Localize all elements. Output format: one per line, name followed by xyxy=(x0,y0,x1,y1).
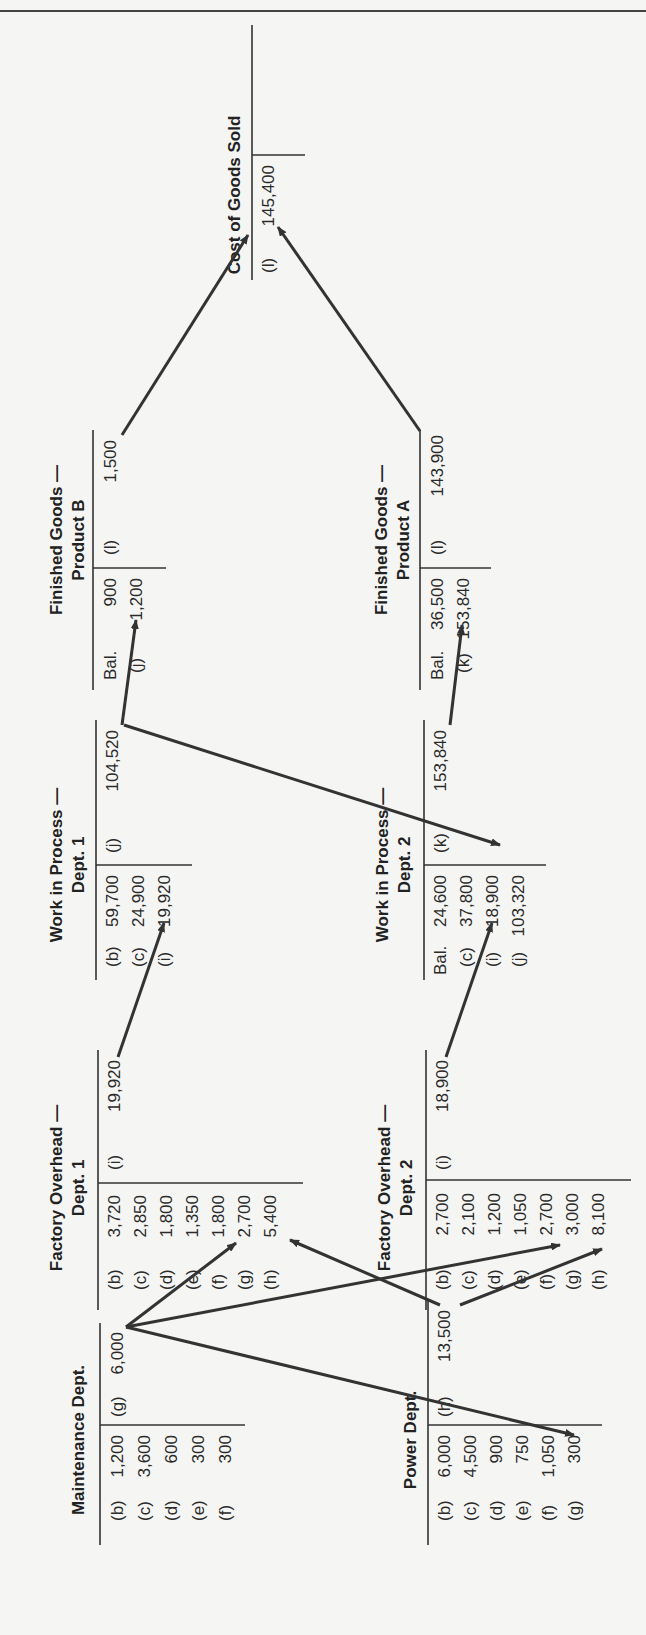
arrow-maint-to-power xyxy=(126,1327,574,1435)
t-account-power: Power Dept. (b)6,000 (c)4,500 (d)900 (e)… xyxy=(401,1300,602,1545)
svg-text:(d): (d) xyxy=(162,1500,181,1521)
svg-text:(f): (f) xyxy=(537,1274,556,1290)
svg-text:18,900: 18,900 xyxy=(483,875,502,927)
svg-text:59,700: 59,700 xyxy=(103,875,122,927)
svg-text:143,900: 143,900 xyxy=(428,435,447,496)
svg-text:4,500: 4,500 xyxy=(461,1435,480,1478)
svg-text:Finished Goods —: Finished Goods — xyxy=(47,465,66,615)
svg-text:Dept. 2: Dept. 2 xyxy=(395,837,414,894)
t-account-diagram: Maintenance Dept. (b)1,200 (c)3,600 (d)6… xyxy=(0,0,646,1635)
svg-text:(d): (d) xyxy=(485,1269,504,1290)
svg-text:1,200: 1,200 xyxy=(108,1435,127,1478)
svg-text:37,800: 37,800 xyxy=(457,875,476,927)
svg-text:24,600: 24,600 xyxy=(431,875,450,927)
svg-text:Bal.: Bal. xyxy=(431,946,450,975)
svg-text:(f): (f) xyxy=(209,1274,228,1290)
svg-text:2,100: 2,100 xyxy=(459,1193,478,1236)
svg-text:1,500: 1,500 xyxy=(101,440,120,483)
svg-text:(b): (b) xyxy=(103,946,122,967)
svg-text:(k): (k) xyxy=(431,833,450,853)
svg-text:104,520: 104,520 xyxy=(103,730,122,791)
svg-text:900: 900 xyxy=(101,578,120,606)
svg-text:600: 600 xyxy=(162,1435,181,1463)
svg-text:1,800: 1,800 xyxy=(209,1195,228,1238)
svg-text:300: 300 xyxy=(565,1435,584,1463)
svg-text:18,900: 18,900 xyxy=(433,1060,452,1112)
svg-text:(c): (c) xyxy=(135,1501,154,1521)
svg-text:Cost of Goods Sold: Cost of Goods Sold xyxy=(225,116,244,275)
svg-text:(l): (l) xyxy=(101,540,120,555)
svg-text:1,200: 1,200 xyxy=(127,578,146,621)
svg-text:103,320: 103,320 xyxy=(509,875,528,936)
t-account-foh-dept1: Factory Overhead — Dept. 1 (b)3,720 (c)2… xyxy=(47,1050,303,1310)
svg-text:(j): (j) xyxy=(103,838,122,853)
svg-text:(c): (c) xyxy=(457,947,476,967)
arrow-foh2-to-wip2 xyxy=(446,923,492,1057)
svg-text:8,100: 8,100 xyxy=(589,1193,608,1236)
svg-text:Dept. 1: Dept. 1 xyxy=(69,837,88,894)
svg-text:2,850: 2,850 xyxy=(131,1195,150,1238)
t-account-maintenance: Maintenance Dept. (b)1,200 (c)3,600 (d)6… xyxy=(69,1323,245,1545)
arrow-fgb-to-cogs xyxy=(122,235,248,435)
svg-text:(c): (c) xyxy=(459,1270,478,1290)
svg-text:Product A: Product A xyxy=(394,500,413,581)
account-title: Power Dept. xyxy=(401,1391,420,1489)
svg-text:(f): (f) xyxy=(216,1505,235,1521)
svg-text:(l): (l) xyxy=(259,258,278,273)
svg-text:(e): (e) xyxy=(189,1500,208,1521)
svg-text:300: 300 xyxy=(189,1435,208,1463)
t-account-wip-dept1: Work in Process — Dept. 1 (b)59,700 (c)2… xyxy=(47,720,192,980)
svg-text:3,600: 3,600 xyxy=(135,1435,154,1478)
svg-text:Factory Overhead —: Factory Overhead — xyxy=(375,1105,394,1271)
svg-text:5,400: 5,400 xyxy=(261,1195,280,1238)
svg-text:(i): (i) xyxy=(433,1155,452,1170)
svg-text:6,000: 6,000 xyxy=(108,1332,127,1375)
svg-text:(d): (d) xyxy=(487,1500,506,1521)
svg-text:24,900: 24,900 xyxy=(129,875,148,927)
svg-text:1,050: 1,050 xyxy=(539,1435,558,1478)
svg-text:19,920: 19,920 xyxy=(155,875,174,927)
svg-text:Bal.: Bal. xyxy=(428,651,447,680)
arrow-foh1-to-wip1 xyxy=(118,923,164,1057)
svg-text:Dept. 2: Dept. 2 xyxy=(397,1160,416,1217)
svg-text:(h): (h) xyxy=(261,1269,280,1290)
svg-text:(g): (g) xyxy=(235,1269,254,1290)
svg-text:153,840: 153,840 xyxy=(454,578,473,639)
svg-text:19,920: 19,920 xyxy=(105,1060,124,1112)
svg-text:(d): (d) xyxy=(157,1269,176,1290)
svg-text:3,720: 3,720 xyxy=(105,1195,124,1238)
svg-text:(f): (f) xyxy=(539,1505,558,1521)
svg-text:3,000: 3,000 xyxy=(563,1193,582,1236)
svg-text:(g): (g) xyxy=(108,1396,127,1417)
svg-text:(g): (g) xyxy=(563,1269,582,1290)
t-account-foh-dept2: Factory Overhead — Dept. 2 (b)2,700 (c)2… xyxy=(375,1050,631,1310)
svg-text:(i): (i) xyxy=(155,952,174,967)
svg-text:Product B: Product B xyxy=(69,499,88,580)
flow-arrows xyxy=(118,227,602,1435)
svg-text:(e): (e) xyxy=(513,1500,532,1521)
svg-text:(j): (j) xyxy=(509,952,528,967)
svg-text:153,840: 153,840 xyxy=(431,730,450,791)
t-account-fg-product-a: Finished Goods — Product A Bal.36,500 (k… xyxy=(372,430,491,690)
svg-text:(b): (b) xyxy=(108,1500,127,1521)
t-account-wip-dept2: Work in Process — Dept. 2 Bal.24,600 (c)… xyxy=(373,720,546,980)
svg-text:(c): (c) xyxy=(131,1270,150,1290)
account-title: Maintenance Dept. xyxy=(69,1365,88,1515)
svg-text:6,000: 6,000 xyxy=(435,1435,454,1478)
svg-text:900: 900 xyxy=(487,1435,506,1463)
svg-text:300: 300 xyxy=(216,1435,235,1463)
svg-text:1,800: 1,800 xyxy=(157,1195,176,1238)
t-account-cost-of-goods-sold: Cost of Goods Sold (l)145,400 xyxy=(225,25,305,280)
svg-text:Factory Overhead —: Factory Overhead — xyxy=(47,1105,66,1271)
svg-text:(l): (l) xyxy=(428,540,447,555)
svg-text:(i): (i) xyxy=(483,952,502,967)
svg-text:(i): (i) xyxy=(105,1155,124,1170)
svg-text:2,700: 2,700 xyxy=(537,1193,556,1236)
svg-text:Bal.: Bal. xyxy=(101,651,120,680)
svg-text:1,050: 1,050 xyxy=(511,1193,530,1236)
svg-text:2,700: 2,700 xyxy=(235,1195,254,1238)
svg-text:145,400: 145,400 xyxy=(259,165,278,226)
arrow-fga-to-cogs xyxy=(278,227,420,431)
svg-text:Finished Goods —: Finished Goods — xyxy=(372,465,391,615)
svg-text:Dept. 1: Dept. 1 xyxy=(69,1160,88,1217)
